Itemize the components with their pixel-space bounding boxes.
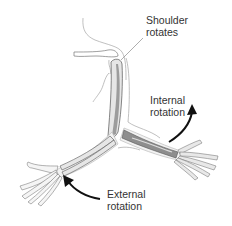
internal-label-line1: Internal <box>150 94 185 106</box>
internal-rotation-label: Internal rotation <box>150 94 185 118</box>
shoulder-leader-line <box>121 38 143 60</box>
external-label-line1: External <box>107 188 146 200</box>
external-rotation-label: External rotation <box>107 188 146 212</box>
shoulder-label-line2: rotates <box>146 26 188 38</box>
clavicle <box>74 50 118 57</box>
arm-internal-rotation <box>120 128 218 180</box>
arm-external-rotation <box>20 132 118 206</box>
hand-external <box>20 162 62 206</box>
shoulder-label-line1: Shoulder <box>146 14 188 26</box>
hand-internal <box>174 140 218 180</box>
external-rotation-arrow-icon <box>63 175 100 199</box>
internal-label-line2: rotation <box>150 106 185 118</box>
shoulder-rotates-label: Shoulder rotates <box>146 14 188 38</box>
external-label-line2: rotation <box>107 200 146 212</box>
